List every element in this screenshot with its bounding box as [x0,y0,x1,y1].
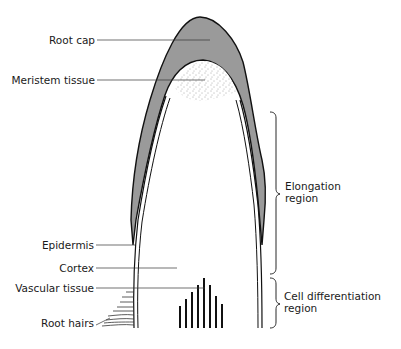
root-hairs-leader [96,318,110,325]
cortex-label: Cortex [59,262,94,274]
elongation-region-label-line1: Elongation [285,180,341,192]
cell-differentiation-label-line1: Cell differentiation [284,290,381,302]
meristem-tissue-label: Meristem tissue [12,74,95,86]
elongation-bracket [270,112,280,274]
vascular-tissue-label: Vascular tissue [15,282,94,294]
root-cap-label: Root cap [49,34,95,46]
epidermis-label: Epidermis [42,239,94,251]
cell-differentiation-bracket [270,278,280,328]
vascular-tissue-shape [180,278,222,328]
cell-differentiation-label-line2: region [284,302,317,314]
elongation-region-label-line2: region [285,192,318,204]
root-tip-diagram: Root cap Meristem tissue Epidermis Corte… [0,0,401,349]
root-hairs-shape [102,292,134,326]
root-hairs-label: Root hairs [41,317,94,329]
root-cap-shape [131,17,265,245]
